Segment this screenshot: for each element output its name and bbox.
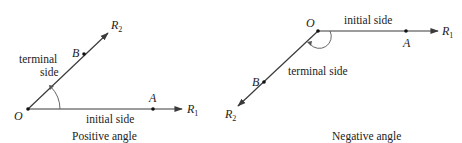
angle-diagram: O A B R1 R2 terminal side initial side P… [0, 0, 462, 143]
negative-point-a [404, 29, 408, 33]
positive-point-a-label: A [148, 91, 157, 105]
negative-r2-label: R2 [224, 107, 236, 123]
positive-r1-label: R1 [186, 102, 198, 118]
diagram-canvas: O A B R1 R2 terminal side initial side P… [0, 0, 462, 143]
positive-point-b [82, 52, 86, 56]
negative-caption: Negative angle [332, 130, 401, 143]
positive-point-a [151, 107, 155, 111]
negative-vertex-point [316, 29, 320, 33]
positive-angle-figure: O A B R1 R2 terminal side initial side P… [14, 18, 198, 143]
positive-initial-side-label: initial side [86, 113, 134, 125]
positive-r2-label: R2 [110, 18, 122, 34]
negative-point-b [262, 80, 266, 84]
positive-terminal-side-label: terminal [19, 53, 57, 65]
negative-angle-arc [310, 31, 331, 48]
negative-terminal-side-label: terminal side [288, 65, 348, 77]
positive-angle-arc [51, 87, 60, 109]
positive-vertex-point [26, 107, 30, 111]
negative-r1-label: R1 [441, 24, 453, 40]
positive-terminal-side-label-2: side [40, 66, 59, 78]
negative-initial-side-label: initial side [344, 14, 392, 26]
positive-point-b-label: B [72, 46, 80, 60]
negative-vertex-label: O [306, 16, 315, 30]
negative-angle-figure: O A B R1 R2 terminal side initial side N… [224, 14, 453, 143]
positive-caption: Positive angle [72, 130, 137, 143]
negative-point-a-label: A [402, 36, 411, 50]
positive-vertex-label: O [14, 109, 23, 123]
negative-point-b-label: B [252, 75, 260, 89]
